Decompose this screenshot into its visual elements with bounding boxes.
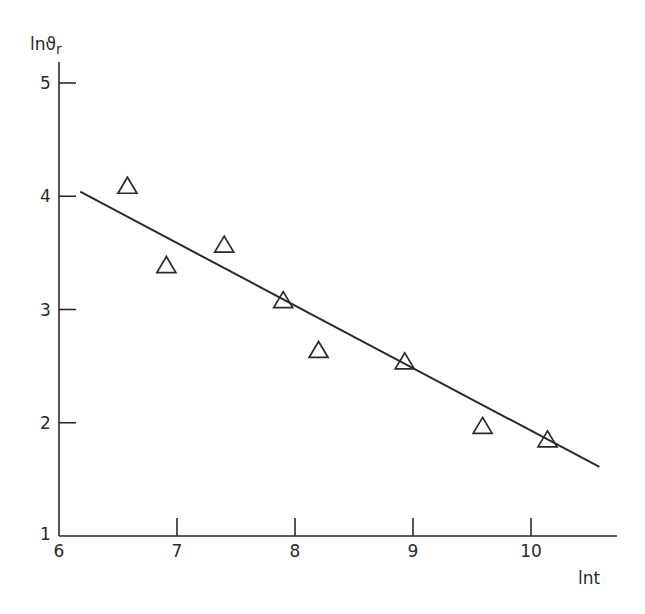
y-tick-label: 3 <box>40 300 51 320</box>
x-tick-label: 7 <box>172 541 183 561</box>
fit-line <box>80 192 599 467</box>
triangle-marker-icon <box>118 177 137 193</box>
x-tick-label: 8 <box>290 541 301 561</box>
regression-line <box>80 192 599 467</box>
triangle-marker-icon <box>309 341 328 357</box>
x-tick-label: 9 <box>408 541 419 561</box>
y-tick-label: 4 <box>40 186 51 206</box>
triangle-marker-icon <box>215 236 234 252</box>
x-tick-label: 6 <box>54 541 65 561</box>
y-axis-label: lnϑr <box>30 34 62 57</box>
data-points <box>118 177 557 447</box>
axes: 12345678910 <box>40 62 617 561</box>
triangle-marker-icon <box>473 417 492 433</box>
chart: 12345678910 lnϑr lnt <box>0 0 645 614</box>
y-tick-label: 2 <box>40 413 51 433</box>
x-tick-label: 10 <box>520 541 542 561</box>
y-tick-label: 1 <box>40 524 51 544</box>
axis-labels: lnϑr lnt <box>30 34 600 588</box>
y-tick-label: 5 <box>40 73 51 93</box>
x-axis-label: lnt <box>578 568 600 588</box>
triangle-marker-icon <box>157 257 176 273</box>
